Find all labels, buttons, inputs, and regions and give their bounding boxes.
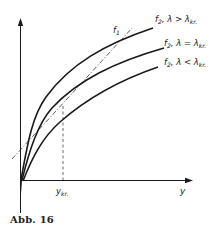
f1-label: f1 [113,25,120,36]
curve-label-lambda-equal: f2, λ = λkr. [164,38,206,49]
critical-point-label: ykr. [55,186,68,197]
horizontal-axis [20,178,193,183]
diagram-figure: f1 f2, λ > λkr. f2, λ = λkr. f2, λ < λkr… [0,0,219,245]
vertical-axis [18,18,23,213]
x-axis-label: y [179,186,186,196]
vertical-axis-arrow-icon [18,18,23,26]
horizontal-axis-arrow-icon [185,178,193,183]
figure-caption: Abb. 16 [10,214,54,225]
curve-lambda-equal [22,48,164,180]
curve-label-lambda-greater: f2, λ > λkr. [155,14,197,25]
curve-lambda-greater [21,28,153,180]
curve-label-lambda-less: f2, λ < λkr. [164,57,206,68]
f1-tangent-line [12,28,132,159]
curve-lambda-less [23,67,158,181]
